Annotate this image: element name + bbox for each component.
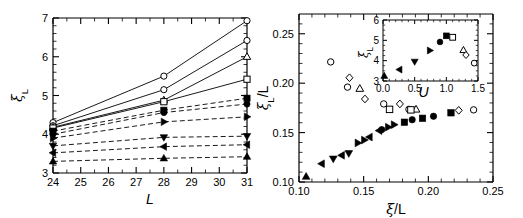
inset-x-tick-label: 0.0 (376, 83, 390, 94)
data-point-filled-up-tri (49, 158, 56, 165)
series-open-circle-upper (50, 18, 250, 126)
data-point-filled-circle (409, 117, 415, 123)
data-point-filled-up-tri (243, 153, 250, 160)
data-point-open-square (161, 99, 167, 105)
series-filled-up-tri (302, 173, 310, 180)
inset-data-point-filled-circle (437, 39, 443, 45)
y-tick-label: 0.20 (273, 77, 294, 89)
data-point-filled-circle (161, 109, 167, 115)
inset-x-tick-label: 1.5 (471, 83, 485, 94)
x-tick-label: 29 (185, 176, 197, 188)
left-panel-canvas: 345672425262728293031LξL (0, 0, 262, 218)
inset-data-point-open-circle (471, 60, 477, 66)
data-point-open-diamond (455, 107, 462, 115)
x-tick-label: 0.10 (288, 185, 309, 197)
data-point-open-square (244, 76, 250, 82)
data-point-filled-left-tri (338, 151, 345, 159)
left-panel-axes (53, 18, 247, 173)
inset-y-tick-label: 6 (373, 15, 379, 26)
inset-data-point-open-square (450, 34, 456, 40)
inset-series-open-circle (471, 60, 477, 66)
data-point-open-diamond (396, 100, 403, 108)
y-axis-label: ξL (9, 89, 30, 102)
data-point-open-circle-upper (161, 73, 167, 79)
data-point-filled-down-tri (345, 151, 353, 158)
data-point-open-triangle (356, 85, 364, 92)
data-point-filled-down-tri (49, 143, 56, 150)
series-filled-up-tri (49, 153, 250, 164)
x-tick-label: 25 (75, 176, 87, 188)
series-line (53, 157, 247, 162)
series-line (53, 136, 247, 146)
series-filled-square (50, 95, 250, 134)
data-point-filled-left-tri (160, 143, 167, 150)
inset-data-point-filled-square (443, 33, 449, 39)
data-point-filled-square (244, 95, 250, 101)
data-point-open-circle (344, 84, 350, 90)
x-tick-label: 28 (158, 176, 170, 188)
data-point-filled-right-tri (355, 139, 362, 147)
data-point-open-circle (470, 107, 476, 113)
x-tick-label: 27 (130, 176, 142, 188)
data-point-filled-square (401, 119, 407, 125)
right-panel-canvas: 0.100.150.200.250.100.150.200.25ξ/LξL/L3… (255, 0, 523, 218)
data-point-open-triangle-up (243, 53, 250, 60)
left-panel-labels: LξL (9, 89, 154, 207)
data-point-filled-circle (430, 113, 436, 119)
data-point-open-circle (327, 59, 333, 65)
x-axis-label: ξ/L (386, 201, 406, 217)
inset-y-tick-label: 4 (373, 55, 379, 66)
inset-y-tick-label: 5 (373, 35, 379, 46)
data-point-open-circle-upper (244, 18, 250, 24)
left-panel-series (49, 18, 251, 164)
series-filled-right-tri (50, 113, 251, 142)
data-point-open-circle-lower (244, 37, 250, 43)
right-panel: 0.100.150.200.250.100.150.200.25ξ/LξL/L3… (255, 0, 523, 218)
x-tick-label: 0.25 (482, 185, 503, 197)
data-point-filled-left-tri (49, 149, 56, 156)
data-point-open-diamond (346, 74, 353, 82)
x-tick-label: 24 (47, 176, 59, 188)
series-line (53, 104, 247, 134)
svg-text:ξL: ξL (357, 46, 375, 58)
data-point-filled-circle (244, 101, 250, 107)
inset-series-open-square (450, 34, 456, 40)
data-point-open-diamond (361, 95, 368, 103)
left-panel-ticks: 345672425262728293031 (42, 12, 253, 188)
data-point-filled-left-tri (318, 160, 325, 168)
data-point-filled-right-tri (391, 121, 398, 129)
series-filled-circle (50, 101, 250, 137)
data-point-open-square (386, 106, 392, 112)
right-panel-inset: 34560.00.51.01.5UξL (357, 15, 485, 101)
svg-text:ξL: ξL (9, 89, 30, 102)
series-filled-right-tri (355, 121, 398, 147)
data-point-filled-down-tri (329, 156, 337, 163)
data-point-filled-square (448, 110, 454, 116)
data-point-filled-square (419, 115, 425, 121)
data-point-filled-right-tri (161, 118, 168, 125)
inset-y-axis-label: ξL (357, 46, 375, 58)
data-point-filled-circle (379, 126, 385, 132)
x-tick-label: 30 (213, 176, 225, 188)
series-filled-left-tri (49, 141, 250, 157)
inset-x-axis-label: U (418, 84, 429, 100)
y-tick-label: 0.15 (273, 127, 294, 139)
series-line (53, 145, 247, 153)
y-tick-label: 7 (42, 12, 48, 24)
x-tick-label: 26 (102, 176, 114, 188)
inset-series-filled-square (443, 33, 449, 39)
y-tick-label: 0.25 (273, 28, 294, 40)
data-point-open-circle-lower (161, 87, 167, 93)
data-point-open-square (408, 107, 414, 113)
y-tick-label: 5 (42, 90, 48, 102)
x-tick-label: 31 (241, 176, 253, 188)
left-panel: 345672425262728293031LξL (0, 0, 262, 218)
y-tick-label: 4 (42, 128, 48, 140)
x-axis-label: L (146, 191, 154, 207)
inset-x-tick-label: 1.0 (439, 83, 453, 94)
data-point-filled-up-tri (160, 154, 167, 161)
series-filled-left-tri (318, 127, 382, 168)
figure-root: 345672425262728293031LξL 0.100.150.200.2… (0, 0, 523, 218)
x-tick-label: 0.20 (418, 185, 439, 197)
inset-series-filled-circle (437, 39, 443, 45)
